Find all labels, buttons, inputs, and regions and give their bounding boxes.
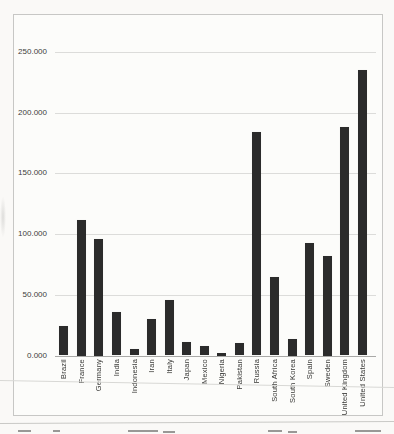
bar-pakistan [235, 343, 244, 356]
bar-brazil [59, 326, 68, 355]
y-tick-label: 250.000 [0, 47, 47, 57]
x-category-label: South Korea [287, 359, 298, 403]
cropped-text-fragment [268, 430, 282, 432]
y-tick-label: 200.000 [0, 108, 47, 118]
x-category-label: Spain [304, 359, 315, 379]
bar-nigeria [217, 353, 226, 356]
scanned-bar-chart-page: 0.00050.000100.000150.000200.000250.000 … [0, 0, 394, 434]
y-tick-label: 50.000 [0, 290, 47, 300]
cropped-text-fragment [53, 430, 60, 432]
bar-mexico [200, 346, 209, 355]
bar-japan [182, 342, 191, 355]
bar-spain [305, 243, 314, 356]
x-category-label: Sweden [322, 359, 333, 387]
bar-south-africa [270, 277, 279, 356]
bar-south-korea [288, 339, 297, 356]
bar-france [77, 220, 86, 356]
x-category-label: Mexico [199, 359, 210, 384]
cropped-text-fragment [128, 430, 158, 432]
x-category-label: United States [357, 359, 368, 407]
x-category-label: South Africa [269, 359, 280, 402]
bar-india [112, 312, 121, 356]
x-category-label: Japan [181, 359, 192, 380]
y-tick-label: 0.000 [0, 351, 47, 361]
gridline [55, 113, 376, 114]
y-tick-label: 150.000 [0, 168, 47, 178]
x-category-label: Iran [146, 359, 157, 373]
x-category-label: Indonesia [129, 359, 140, 393]
x-category-label: India [111, 359, 122, 376]
x-axis-line [55, 356, 376, 357]
bar-united-states [358, 70, 367, 355]
x-category-label: France [76, 359, 87, 384]
bar-sweden [323, 256, 332, 356]
gridline [55, 234, 376, 235]
cropped-text-fragment [163, 431, 175, 433]
cropped-text-fragment [355, 430, 381, 432]
x-category-label: Russia [251, 359, 262, 383]
y-tick-label: 100.000 [0, 229, 47, 239]
page-edge-rule [0, 421, 394, 424]
x-category-label: Brazil [58, 359, 69, 379]
cropped-text-fragment [18, 430, 31, 432]
bar-iran [147, 319, 156, 355]
x-category-label: Germany [93, 359, 104, 391]
gridline [55, 173, 376, 174]
x-category-label: Italy [164, 359, 175, 374]
x-category-label: Nigeria [216, 359, 227, 384]
bar-italy [165, 300, 174, 356]
bar-germany [94, 239, 103, 356]
bar-united-kingdom [340, 127, 349, 355]
gridline [55, 52, 376, 53]
bar-indonesia [130, 349, 139, 356]
cropped-text-fragment [288, 431, 297, 433]
bar-russia [252, 132, 261, 355]
